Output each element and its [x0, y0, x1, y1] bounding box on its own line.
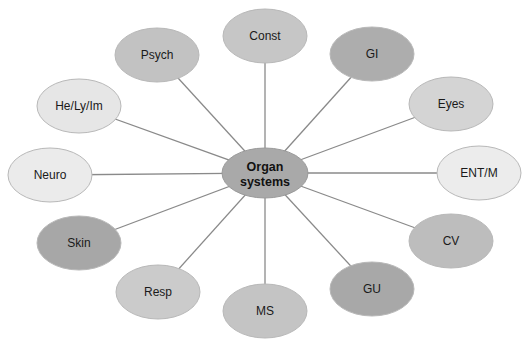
center-node: Organ systems: [222, 148, 308, 198]
node-label-cv: CV: [443, 234, 460, 248]
node-label-eyes: Eyes: [438, 97, 465, 111]
node-label-gu: GU: [363, 282, 381, 296]
node-he-ly-im: He/Ly/Im: [37, 79, 121, 133]
node-label-const: Const: [249, 29, 281, 43]
node-skin: Skin: [37, 216, 121, 270]
node-const: Const: [223, 9, 307, 63]
center-label-line-1: Organ: [247, 160, 284, 174]
node-resp: Resp: [116, 265, 200, 319]
node-label-ent-m: ENT/M: [460, 166, 497, 180]
node-gu: GU: [330, 262, 414, 316]
node-label-resp: Resp: [144, 285, 172, 299]
node-psych: Psych: [115, 28, 199, 82]
organ-systems-diagram: ConstGIEyesENT/MCVGUMSRespSkinNeuroHe/Ly…: [0, 0, 529, 346]
node-neuro: Neuro: [8, 148, 92, 202]
diagram-canvas: ConstGIEyesENT/MCVGUMSRespSkinNeuroHe/Ly…: [0, 0, 529, 346]
node-ent-m: ENT/M: [437, 146, 521, 200]
node-eyes: Eyes: [409, 77, 493, 131]
node-gi: GI: [330, 27, 414, 81]
node-label-skin: Skin: [67, 236, 90, 250]
node-label-ms: MS: [256, 304, 274, 318]
node-cv: CV: [409, 214, 493, 268]
node-label-neuro: Neuro: [34, 168, 67, 182]
node-label-he-ly-im: He/Ly/Im: [55, 99, 103, 113]
node-label-gi: GI: [366, 47, 379, 61]
center-label-line-2: systems: [240, 175, 290, 189]
node-label-psych: Psych: [141, 48, 174, 62]
node-ms: MS: [223, 284, 307, 338]
